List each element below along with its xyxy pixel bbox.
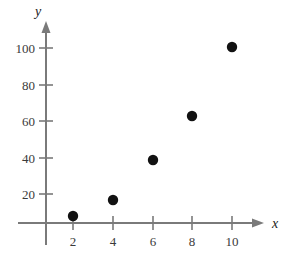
x-tick-label-10: 10 [226,234,239,249]
data-point-1 [68,211,78,221]
x-tick-label-8: 8 [189,234,196,249]
x-axis-label: x [271,216,279,231]
data-point-2 [108,195,118,205]
x-tick-label-6: 6 [150,234,157,249]
data-point-5 [227,42,237,52]
data-point-3 [148,155,158,165]
plot-canvas: 100 80 60 40 20 2 4 6 8 10 y x [0,0,286,261]
x-axis-arrow-icon [252,219,264,228]
x-tick-label-2: 2 [70,234,77,249]
y-tick-label-100: 100 [16,41,36,56]
x-tick-label-4: 4 [110,234,117,249]
y-tick-label-40: 40 [22,151,35,166]
y-axis-label: y [33,4,42,19]
y-axis-arrow-icon [42,21,51,33]
y-tick-label-20: 20 [22,187,35,202]
y-tick-label-80: 80 [22,78,35,93]
y-tick-label-60: 60 [22,114,35,129]
data-point-4 [187,111,197,121]
scatter-plot-figure: 100 80 60 40 20 2 4 6 8 10 y x [0,0,286,261]
